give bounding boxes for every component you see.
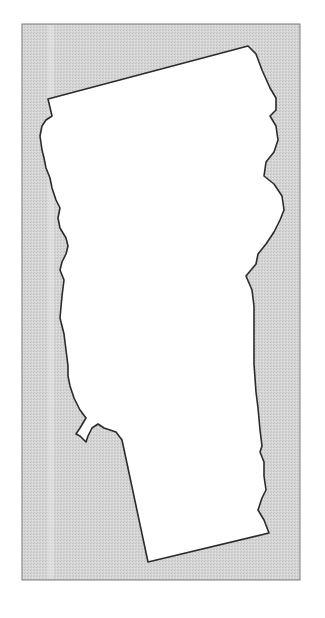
vermont-outline-map bbox=[0, 0, 325, 618]
map-figure bbox=[0, 0, 325, 618]
